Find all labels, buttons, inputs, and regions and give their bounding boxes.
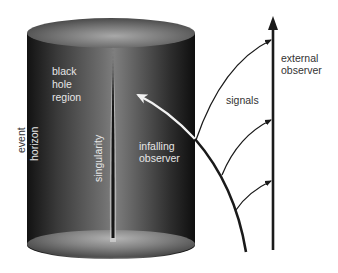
black-hole-diagram: black hole region singularity horizon ev… bbox=[0, 0, 338, 273]
label-external-observer: external observer bbox=[281, 52, 322, 76]
infalling-worldline bbox=[195, 139, 246, 252]
label-event: event bbox=[15, 127, 27, 153]
label-infalling-observer: infalling observer bbox=[139, 140, 180, 164]
signal-arrow-2 bbox=[222, 120, 271, 175]
signal-arrow-1 bbox=[196, 40, 271, 140]
label-horizon: horizon bbox=[28, 126, 40, 161]
label-singularity: singularity bbox=[92, 134, 104, 182]
cylinder-top bbox=[27, 18, 195, 48]
signal-arrow-3 bbox=[236, 181, 271, 210]
signal-arrows bbox=[196, 40, 271, 210]
external-observer-arrow-head bbox=[268, 16, 278, 30]
label-signals: signals bbox=[226, 94, 259, 106]
